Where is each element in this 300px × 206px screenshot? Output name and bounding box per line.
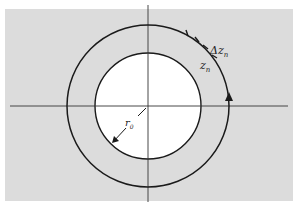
- annulus-diagram: Δzn zn r0: [0, 0, 300, 206]
